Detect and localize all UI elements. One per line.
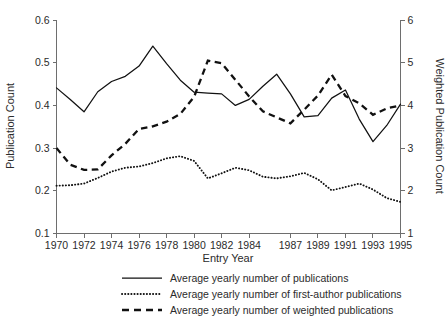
y-axis-left-tick-label: 0.2 (35, 184, 50, 196)
x-axis-tick-label: 1978 (155, 239, 179, 251)
x-axis: 1970197219741976197819801982198419871989… (45, 234, 413, 251)
y-axis-left-tick-label: 0.3 (35, 142, 50, 154)
x-axis-tick-label: 1974 (100, 239, 124, 251)
x-axis-tick-label: 1993 (361, 239, 385, 251)
data-series-3 (57, 61, 401, 170)
y-axis-right-tick-label: 6 (408, 14, 414, 26)
x-axis-tick-label: 1972 (72, 239, 96, 251)
y-axis-right-tick-label: 2 (408, 184, 414, 196)
y-axis-right: 123456 (401, 14, 414, 240)
x-axis-ticks: 1970197219741976197819801982198419871989… (45, 234, 413, 251)
x-axis-title: Entry Year (203, 252, 254, 264)
line-chart-canvas: 0.10.20.30.40.50.6 123456 19701972197419… (0, 0, 446, 324)
chart-figure: 0.10.20.30.40.50.6 123456 19701972197419… (0, 0, 446, 324)
data-series-1 (57, 46, 401, 142)
data-series-group (57, 46, 401, 202)
x-axis-tick-label: 1991 (334, 239, 358, 251)
x-axis-tick-label: 1982 (210, 239, 234, 251)
x-axis-tick-label: 1976 (127, 239, 151, 251)
y-axis-right-tick-label: 1 (408, 227, 414, 239)
x-axis-tick-label: 1984 (237, 239, 261, 251)
y-axis-left-ticks: 0.10.20.30.40.50.6 (35, 14, 57, 240)
y-axis-right-tick-label: 3 (408, 142, 414, 154)
x-axis-tick-label: 1995 (389, 239, 413, 251)
x-axis-tick-label: 1987 (279, 239, 303, 251)
y-axis-right-title: Weighted Publication Count (434, 58, 446, 194)
y-axis-right-ticks: 123456 (401, 14, 414, 240)
y-axis-left-tick-label: 0.6 (35, 14, 50, 26)
x-axis-tick-label: 1970 (45, 239, 69, 251)
y-axis-left: 0.10.20.30.40.50.6 (35, 14, 57, 240)
legend-label-2: Average yearly number of first-author pu… (170, 288, 402, 300)
y-axis-right-tick-label: 5 (408, 56, 414, 68)
legend-label-1: Average yearly number of publications (170, 272, 348, 284)
x-axis-tick-label: 1980 (182, 239, 206, 251)
chart-legend: Average yearly number of publicationsAve… (122, 272, 402, 316)
legend-label-3: Average yearly number of weighted public… (170, 304, 393, 316)
y-axis-left-tick-label: 0.4 (35, 99, 50, 111)
y-axis-left-title: Publication Count (4, 83, 16, 169)
y-axis-left-tick-label: 0.1 (35, 227, 50, 239)
x-axis-tick-label: 1989 (306, 239, 330, 251)
y-axis-left-tick-label: 0.5 (35, 56, 50, 68)
data-series-2 (57, 156, 401, 202)
y-axis-right-tick-label: 4 (408, 99, 414, 111)
